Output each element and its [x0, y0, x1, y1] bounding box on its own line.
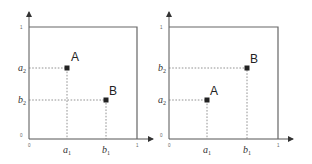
unit-square	[29, 27, 137, 139]
x-max-tick: 1	[277, 143, 280, 148]
point-A-label: A	[210, 84, 218, 98]
point-A	[205, 98, 210, 103]
point-A	[65, 66, 70, 71]
x-label-a1: a1	[63, 144, 71, 156]
unit-square	[169, 27, 278, 139]
panel-right: 1 0 0 1 A a2 a1 B b2 b1	[158, 12, 293, 156]
y-label-a2: a2	[158, 94, 166, 106]
x-origin-tick: 0	[28, 143, 31, 148]
panel-left: 1 0 0 1 A a2 a1 B b2 b1	[18, 12, 153, 156]
point-B-label: B	[250, 52, 258, 66]
x-origin-tick: 0	[168, 143, 171, 148]
point-A-label: A	[71, 50, 79, 64]
guide-A	[169, 100, 207, 139]
x-label-b1: b1	[102, 144, 110, 156]
diagram-canvas: 1 0 0 1 A a2 a1 B b2 b1 1 0 0 1 A a2 a1 …	[0, 0, 312, 164]
y-origin-tick: 0	[160, 133, 163, 138]
point-B	[104, 98, 109, 103]
point-B-label: B	[109, 84, 117, 98]
x-label-b1: b1	[243, 144, 251, 156]
y-label-b2: b2	[18, 94, 26, 106]
point-B	[245, 66, 250, 71]
y-max-tick: 1	[160, 25, 163, 30]
y-max-tick: 1	[20, 25, 23, 30]
guide-B	[29, 100, 106, 139]
guide-A	[29, 68, 67, 139]
x-max-tick: 1	[136, 143, 139, 148]
y-label-a2: a2	[18, 62, 26, 74]
y-label-b2: b2	[158, 62, 166, 74]
y-origin-tick: 0	[20, 133, 23, 138]
guide-B	[169, 68, 247, 139]
x-label-a1: a1	[203, 144, 211, 156]
